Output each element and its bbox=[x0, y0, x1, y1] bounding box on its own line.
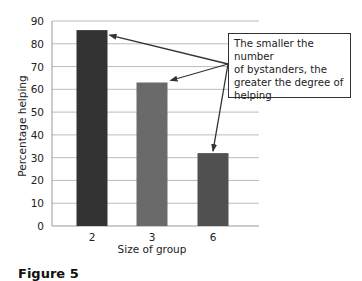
y-tick-label: 10 bbox=[31, 197, 44, 209]
annotation-arrow bbox=[110, 35, 229, 64]
y-tick-label: 40 bbox=[31, 129, 44, 141]
y-tick-label: 20 bbox=[31, 174, 44, 186]
bar-2 bbox=[77, 30, 108, 226]
y-tick-label: 90 bbox=[31, 15, 44, 27]
figure-caption: Figure 5 bbox=[18, 266, 79, 281]
x-tick-label: 2 bbox=[89, 231, 96, 243]
annotation-arrow bbox=[213, 64, 228, 151]
x-tick-label: 6 bbox=[210, 231, 217, 243]
y-tick-label: 30 bbox=[31, 152, 44, 164]
y-tick-label: 70 bbox=[31, 61, 44, 73]
y-tick-label: 60 bbox=[31, 83, 44, 95]
x-axis-label: Size of group bbox=[118, 243, 187, 255]
y-axis-label: Percentage helping bbox=[16, 75, 28, 176]
x-tick-label: 3 bbox=[149, 231, 156, 243]
y-tick-label: 0 bbox=[37, 220, 44, 232]
annotation-box: The smaller the number of bystanders, th… bbox=[228, 33, 351, 98]
y-tick-label: 50 bbox=[31, 106, 44, 118]
y-tick-label: 80 bbox=[31, 38, 44, 50]
annotation-line: of bystanders, the bbox=[234, 63, 347, 76]
bar-6 bbox=[198, 153, 229, 226]
bar-3 bbox=[137, 83, 168, 227]
annotation-line: greater the degree of bbox=[234, 76, 347, 89]
annotation-line: helping bbox=[234, 89, 347, 102]
annotation-line: The smaller the number bbox=[234, 37, 347, 63]
